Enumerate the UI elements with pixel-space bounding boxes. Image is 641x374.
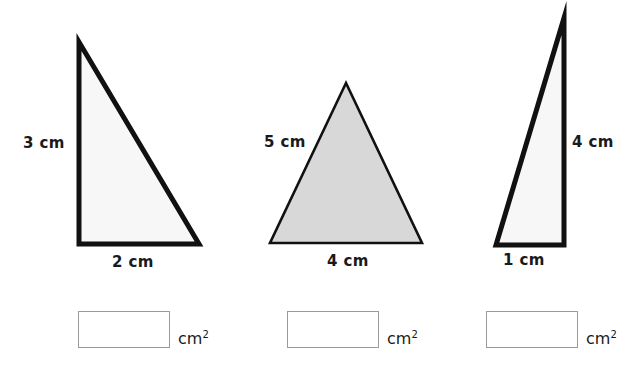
answer-group-3: cm2 [486,311,617,348]
answer-row: cm2 cm2 cm2 [0,0,641,374]
unit-exponent-2: 2 [411,329,417,340]
answer-input-2[interactable] [287,311,379,348]
answer-input-3[interactable] [486,311,578,348]
worksheet-canvas: 3 cm 2 cm 5 cm 4 cm 4 cm 1 cm cm2 cm2 cm… [0,0,641,374]
unit-text-1: cm [178,329,202,348]
unit-label-3: cm2 [586,331,617,348]
unit-text-2: cm [387,329,411,348]
unit-text-3: cm [586,329,610,348]
unit-exponent-3: 2 [610,329,616,340]
answer-group-2: cm2 [287,311,418,348]
unit-exponent-1: 2 [202,329,208,340]
unit-label-1: cm2 [178,331,209,348]
answer-group-1: cm2 [78,311,209,348]
unit-label-2: cm2 [387,331,418,348]
answer-input-1[interactable] [78,311,170,348]
